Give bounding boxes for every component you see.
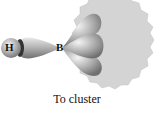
bh-bond-orbital (16, 38, 60, 59)
caption: To cluster (0, 92, 154, 107)
boron-label: B (56, 41, 63, 53)
boron-cluster-orbitals (62, 14, 104, 76)
hydrogen-label: H (5, 41, 14, 53)
